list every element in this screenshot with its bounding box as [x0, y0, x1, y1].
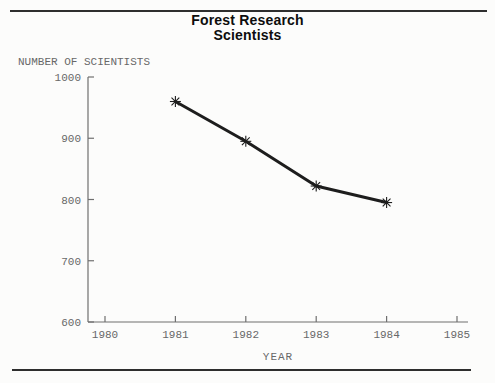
x-tick-label: 1982: [233, 329, 259, 341]
y-tick-label: 1000: [55, 72, 81, 84]
x-tick-label: 1981: [162, 329, 189, 341]
x-tick-label: 1985: [444, 329, 470, 341]
x-axis-title: YEAR: [88, 351, 468, 363]
y-tick-label: 900: [61, 133, 81, 145]
bottom-divider: [12, 369, 471, 371]
x-tick-label: 1984: [373, 329, 400, 341]
line-chart: 6007008009001000198019811982198319841985: [0, 0, 495, 383]
data-line: [175, 102, 386, 203]
y-tick-label: 800: [61, 195, 81, 207]
x-tick-label: 1980: [92, 329, 118, 341]
chart-page: { "page": { "background": "#fcfcfb" }, "…: [0, 0, 495, 383]
y-tick-label: 600: [61, 317, 81, 329]
x-tick-label: 1983: [303, 329, 329, 341]
y-tick-label: 700: [61, 256, 81, 268]
